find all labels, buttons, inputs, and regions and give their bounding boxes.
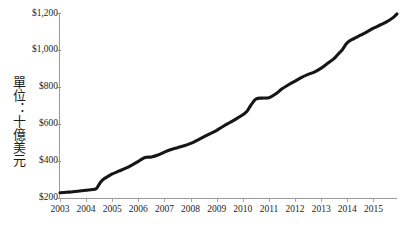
data-series-line: [60, 14, 397, 193]
plot-area: [0, 0, 402, 229]
chart-container: 單位：十億美元 $1,200 $1,000 $800 $600 $400 $20…: [0, 0, 402, 229]
